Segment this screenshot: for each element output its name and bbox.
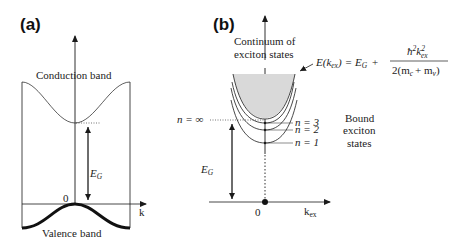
valence-band-label-1: Valence <box>42 227 77 239</box>
continuum-fill <box>233 74 295 118</box>
bound-label-1: Bound <box>345 112 375 124</box>
level-label-n2: n = 2 <box>295 123 319 135</box>
gap-label-b: EG <box>200 163 214 177</box>
continuum-label-2: exciton states <box>234 48 294 60</box>
n-infinity-label: n = ∞ <box>177 113 203 125</box>
continuum-label-1: Continuum of <box>234 35 296 47</box>
svg-text:E(kex)=EG+: E(kex)=EG+ <box>315 56 379 70</box>
level-label-n1: n = 1 <box>295 136 319 148</box>
conduction-band-curve <box>22 82 130 123</box>
band-diagram: (a) Conduction band EG 0 k Valence band … <box>0 0 462 241</box>
bound-label-3: states <box>347 137 371 149</box>
dispersion-formula: E(kex)=EG+ ħ2k2ex 2(mc+ mv) <box>315 44 448 78</box>
valence-band-label-2: band <box>80 227 102 239</box>
panel-a: (a) Conduction band EG 0 k Valence band <box>20 15 146 239</box>
conduction-band-label: Conduction band <box>36 69 112 81</box>
level-point-n3 <box>264 122 266 124</box>
gap-label-a: EG <box>89 167 103 181</box>
level-point-n2 <box>264 129 266 131</box>
formula-pointer-arrow <box>300 64 313 71</box>
level-point-n1 <box>264 142 266 144</box>
origin-label-b: 0 <box>255 206 261 218</box>
kex-axis-label: kex <box>304 205 317 219</box>
panel-b: (b) Continuum of exciton states E(kex)=E… <box>177 15 448 219</box>
svg-text:ħ2k2ex: ħ2k2ex <box>407 44 428 60</box>
panel-b-label: (b) <box>213 15 235 34</box>
k-axis-label-a: k <box>139 206 145 218</box>
origin-label-a: 0 <box>63 192 69 204</box>
origin-dot <box>262 199 268 205</box>
bound-label-2: exciton <box>343 124 376 136</box>
svg-text:2(mc+ mv): 2(mc+ mv) <box>392 64 440 78</box>
panel-a-label: (a) <box>20 15 41 34</box>
valence-band-curve <box>22 204 130 228</box>
